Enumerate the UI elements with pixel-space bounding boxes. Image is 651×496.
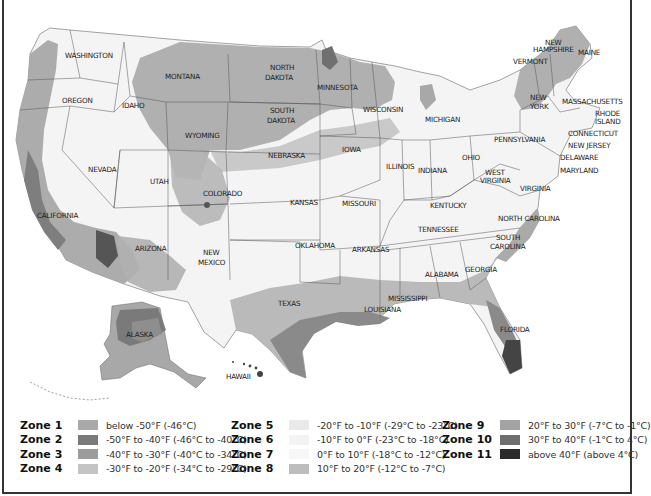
state-label: MONTANA [165, 72, 200, 81]
legend-swatch [500, 435, 520, 445]
state-label: SOUTH [496, 233, 520, 242]
legend-zone-label: Zone 8 [231, 462, 289, 475]
legend-column-1: Zone 1below -50°F (-46°C)Zone 2-50°F to … [20, 418, 247, 476]
state-label: HAWAII [226, 372, 251, 381]
legend-item: Zone 6-10°F to 0°F (-23°C to -18°C) [231, 433, 458, 448]
state-label: MICHIGAN [425, 115, 460, 124]
legend-temperature-range: 30°F to 40°F (-1°C to 4°C) [528, 434, 647, 445]
legend-temperature-range: -30°F to -20°F (-34°C to -29°C) [106, 463, 247, 474]
legend-temperature-range: 0°F to 10°F (-18°C to -12°C) [317, 449, 445, 460]
legend-zone-label: Zone 5 [231, 419, 289, 432]
legend-zone-label: Zone 11 [442, 448, 500, 461]
legend-swatch [78, 449, 98, 459]
state-label: KANSAS [290, 198, 318, 207]
state-label: ARKANSAS [352, 245, 390, 254]
legend-zone-label: Zone 1 [20, 419, 78, 432]
legend-zone-label: Zone 3 [20, 448, 78, 461]
zone-legend: Zone 1below -50°F (-46°C)Zone 2-50°F to … [0, 418, 638, 488]
legend-item: Zone 5-20°F to -10°F (-29°C to -23°C) [231, 418, 458, 433]
legend-temperature-range: -20°F to -10°F (-29°C to -23°C) [317, 420, 458, 431]
state-label: PENNSYLVANIA [494, 135, 545, 144]
state-label: CAROLINA [490, 242, 526, 251]
state-label: NORTH CAROLINA [498, 214, 560, 223]
state-label: COLORADO [203, 189, 243, 198]
state-label: YORK [529, 102, 549, 111]
state-label: IOWA [342, 145, 361, 154]
state-label: NEW [530, 93, 547, 102]
legend-item: Zone 3-40°F to -30°F (-40°C to -34°C) [20, 447, 247, 462]
state-label: WYOMING [185, 131, 220, 140]
legend-item: Zone 4-30°F to -20°F (-34°C to -29°C) [20, 462, 247, 477]
legend-zone-label: Zone 6 [231, 433, 289, 446]
state-label: KENTUCKY [430, 201, 467, 210]
legend-zone-label: Zone 2 [20, 433, 78, 446]
state-label: OKLAHOMA [295, 241, 335, 250]
legend-swatch [78, 464, 98, 474]
state-label: MINNESOTA [317, 83, 358, 92]
state-label: ISLAND [595, 117, 621, 126]
legend-item: Zone 1030°F to 40°F (-1°C to 4°C) [442, 433, 651, 448]
state-label: NEBRASKA [268, 151, 305, 160]
state-label: CONNECTICUT [568, 129, 619, 138]
legend-temperature-range: above 40°F (above 4°C) [528, 449, 638, 460]
legend-item: Zone 2-50°F to -40°F (-46°C to -40°C) [20, 433, 247, 448]
state-label: DELAWARE [560, 153, 599, 162]
state-label: ILLINOIS [386, 162, 415, 171]
state-label: TEXAS [277, 299, 301, 308]
legend-item: Zone 70°F to 10°F (-18°C to -12°C) [231, 447, 458, 462]
state-label: MARYLAND [560, 166, 599, 175]
state-label: WISCONSIN [363, 105, 403, 114]
state-label: FLORIDA [500, 325, 530, 334]
state-label: MASSACHUSETTS [562, 97, 623, 106]
legend-item: Zone 920°F to 30°F (-7°C to -1°C) [442, 418, 651, 433]
state-label: SOUTH [270, 106, 294, 115]
legend-zone-label: Zone 4 [20, 462, 78, 475]
state-label: ALASKA [126, 330, 153, 339]
legend-temperature-range: -40°F to -30°F (-40°C to -34°C) [106, 449, 247, 460]
legend-item: Zone 810°F to 20°F (-12°C to -7°C) [231, 462, 458, 477]
legend-swatch [289, 449, 309, 459]
hardiness-zone-map: WASHINGTONOREGONIDAHOMONTANAWYOMINGNORTH… [0, 0, 638, 410]
state-label: INDIANA [418, 166, 447, 175]
legend-zone-label: Zone 9 [442, 419, 500, 432]
state-label: VIRGINIA [480, 176, 511, 185]
legend-item: Zone 11above 40°F (above 4°C) [442, 447, 651, 462]
legend-swatch [500, 449, 520, 459]
state-label: LOUISIANA [364, 305, 401, 314]
state-label: MISSOURI [342, 199, 376, 208]
state-label: NORTH [270, 63, 294, 72]
legend-swatch [289, 420, 309, 430]
legend-swatch [78, 435, 98, 445]
zone-10-south-florida [502, 340, 522, 374]
state-label: WASHINGTON [65, 51, 113, 60]
state-label: MEXICO [198, 258, 226, 267]
state-label: GEORGIA [465, 265, 497, 274]
state-label: UTAH [150, 177, 169, 186]
state-label: TENNESSEE [417, 225, 459, 234]
legend-temperature-range: 10°F to 20°F (-12°C to -7°C) [317, 463, 445, 474]
legend-swatch [78, 420, 98, 430]
aleutian-islands [30, 382, 110, 400]
legend-zone-label: Zone 10 [442, 433, 500, 446]
state-label: MISSISSIPPI [388, 294, 427, 303]
legend-column-3: Zone 920°F to 30°F (-7°C to -1°C)Zone 10… [442, 418, 651, 462]
state-label: DAKOTA [265, 73, 293, 82]
legend-temperature-range: -50°F to -40°F (-46°C to -40°C) [106, 434, 247, 445]
state-label: MAINE [578, 48, 601, 57]
legend-temperature-range: -10°F to 0°F (-23°C to -18°C) [317, 434, 449, 445]
state-label: CALIFORNIA [37, 211, 79, 220]
legend-swatch [289, 435, 309, 445]
state-label: DAKOTA [267, 116, 295, 125]
state-label: VERMONT [513, 57, 548, 66]
state-label: HAMPSHIRE [533, 45, 574, 54]
legend-column-2: Zone 5-20°F to -10°F (-29°C to -23°C)Zon… [231, 418, 458, 476]
state-label: ALABAMA [425, 270, 459, 279]
legend-item: Zone 1below -50°F (-46°C) [20, 418, 247, 433]
legend-temperature-range: below -50°F (-46°C) [106, 420, 196, 431]
state-label: NEW [203, 248, 220, 257]
state-label: VIRGINIA [520, 184, 551, 193]
state-label: IDAHO [122, 101, 145, 110]
state-label: OREGON [62, 96, 93, 105]
legend-swatch [500, 420, 520, 430]
legend-swatch [289, 464, 309, 474]
